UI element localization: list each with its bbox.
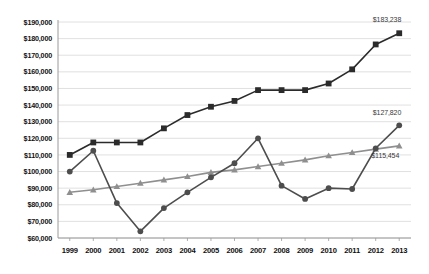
end-label-triangle: $115,454 — [359, 152, 399, 159]
series-circles-marker — [67, 169, 73, 175]
series-circles-marker — [396, 122, 402, 128]
y-tick-label-90000: $90,000 — [0, 184, 52, 193]
y-tick-label-190000: $190,000 — [0, 18, 52, 27]
y-tick-label-80000: $80,000 — [0, 200, 52, 209]
series-squares-marker — [255, 87, 261, 93]
end-label-square: $183,238 — [361, 16, 401, 23]
x-tick-label-2001: 2001 — [109, 246, 125, 255]
chart-container: $190,000$180,000$170,000$160,000$150,000… — [0, 0, 429, 274]
series-squares-line — [70, 33, 399, 155]
y-tick-label-60000: $60,000 — [0, 234, 52, 243]
x-tick-label-2005: 2005 — [203, 246, 219, 255]
x-tick-label-2013: 2013 — [391, 246, 407, 255]
chart-plot-area — [0, 0, 429, 274]
series-squares-marker — [302, 87, 308, 93]
series-circles-marker — [302, 196, 308, 202]
x-tick-label-2006: 2006 — [226, 246, 242, 255]
x-tick-label-2012: 2012 — [368, 246, 384, 255]
series-squares-marker — [373, 42, 379, 48]
series-squares-marker — [208, 104, 214, 110]
x-tick-label-2003: 2003 — [156, 246, 172, 255]
x-tick-label-2002: 2002 — [132, 246, 148, 255]
series-circles-marker — [255, 135, 261, 141]
series-squares-marker — [161, 125, 167, 131]
series-circles-marker — [279, 183, 285, 189]
y-tick-label-70000: $70,000 — [0, 217, 52, 226]
x-tick-label-2011: 2011 — [344, 246, 360, 255]
x-tick-label-2004: 2004 — [179, 246, 195, 255]
series-circles-marker — [90, 148, 96, 154]
series-circles-marker — [185, 189, 191, 195]
y-tick-label-140000: $140,000 — [0, 101, 52, 110]
x-tick-label-2000: 2000 — [85, 246, 101, 255]
y-tick-label-180000: $180,000 — [0, 34, 52, 43]
series-circles-marker — [137, 228, 143, 234]
grid-lines — [58, 22, 411, 238]
y-tick-label-110000: $110,000 — [0, 151, 52, 160]
series-squares-marker — [114, 140, 120, 146]
series-circles-marker — [326, 185, 332, 191]
x-tick-label-1999: 1999 — [62, 246, 78, 255]
axes — [58, 20, 411, 241]
series-circles-marker — [349, 186, 355, 192]
series-circles — [67, 122, 402, 234]
series-circles-marker — [373, 145, 379, 151]
series-squares-marker — [232, 98, 238, 104]
y-tick-label-100000: $100,000 — [0, 167, 52, 176]
series-circles-marker — [161, 205, 167, 211]
x-tick-label-2007: 2007 — [250, 246, 266, 255]
series-squares-marker — [67, 152, 73, 158]
series-circles-marker — [232, 160, 238, 166]
y-tick-label-120000: $120,000 — [0, 134, 52, 143]
series-squares-marker — [326, 81, 332, 87]
x-tick-label-2009: 2009 — [297, 246, 313, 255]
series-squares-marker — [90, 140, 96, 146]
series-circles-marker — [114, 200, 120, 206]
end-label-circle: $127,820 — [361, 109, 401, 116]
series-squares-marker — [137, 140, 143, 146]
series-squares-marker — [185, 112, 191, 118]
y-tick-label-160000: $160,000 — [0, 67, 52, 76]
x-tick-label-2010: 2010 — [321, 246, 337, 255]
y-tick-label-130000: $130,000 — [0, 117, 52, 126]
series-circles-marker — [208, 174, 214, 180]
series-squares-marker — [279, 87, 285, 93]
y-tick-label-150000: $150,000 — [0, 84, 52, 93]
y-tick-label-170000: $170,000 — [0, 51, 52, 60]
series-squares-marker — [349, 66, 355, 72]
series-squares-marker — [396, 30, 402, 36]
x-tick-label-2008: 2008 — [274, 246, 290, 255]
